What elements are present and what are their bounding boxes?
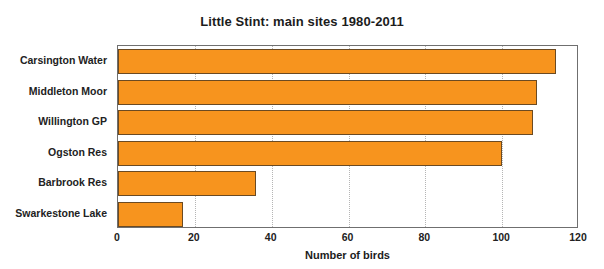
x-axis-tick-labels: 020406080100120 xyxy=(0,231,604,247)
y-axis-label-5: Swarkestone Lake xyxy=(0,198,112,229)
x-axis-title: Number of birds xyxy=(117,249,578,261)
chart-figure: Little Stint: main sites 1980-2011 Carsi… xyxy=(0,0,604,269)
y-axis-category-labels: Carsington WaterMiddleton MoorWillington… xyxy=(0,45,112,228)
x-tick-label-100: 100 xyxy=(492,231,510,243)
x-tick-label-0: 0 xyxy=(114,231,120,243)
plot-inner xyxy=(118,46,577,227)
x-tick-label-20: 20 xyxy=(188,231,200,243)
plot-area xyxy=(117,45,578,228)
y-axis-label-0: Carsington Water xyxy=(0,45,112,76)
x-tick-label-120: 120 xyxy=(569,231,587,243)
y-axis-label-4: Barbrook Res xyxy=(0,167,112,198)
y-axis-label-3: Ogston Res xyxy=(0,137,112,168)
chart-title: Little Stint: main sites 1980-2011 xyxy=(0,14,604,29)
bar-row xyxy=(118,199,577,228)
bar[interactable] xyxy=(118,171,256,196)
bar-row xyxy=(118,138,577,169)
bar-row xyxy=(118,46,577,77)
y-axis-label-1: Middleton Moor xyxy=(0,76,112,107)
bar-row xyxy=(118,168,577,199)
bar-row xyxy=(118,77,577,108)
bar[interactable] xyxy=(118,141,502,166)
bar-row xyxy=(118,107,577,138)
bar[interactable] xyxy=(118,49,556,74)
bar[interactable] xyxy=(118,110,533,135)
bar[interactable] xyxy=(118,80,537,105)
bar[interactable] xyxy=(118,202,183,227)
x-tick-label-60: 60 xyxy=(342,231,354,243)
y-axis-label-2: Willington GP xyxy=(0,106,112,137)
x-tick-label-80: 80 xyxy=(418,231,430,243)
x-tick-label-40: 40 xyxy=(265,231,277,243)
